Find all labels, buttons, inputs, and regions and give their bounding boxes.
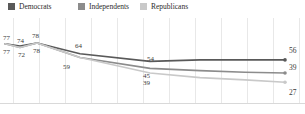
series-endpoint-markers	[283, 58, 287, 84]
legend-label-republicans: Republicans	[151, 2, 188, 11]
legend-label-independents: Independents	[89, 2, 129, 11]
legend-item-democrats: Democrats	[8, 2, 52, 11]
data-label: 74	[17, 37, 24, 45]
legend-label-democrats: Democrats	[19, 2, 52, 11]
data-label: 78	[33, 47, 40, 55]
legend-item-republicans: Republicans	[140, 2, 188, 11]
data-label: 59	[63, 63, 70, 71]
data-label: 54	[147, 55, 154, 63]
series-line-independents	[5, 43, 285, 73]
data-label: 39	[143, 79, 150, 87]
legend-item-independents: Independents	[78, 2, 129, 11]
line-chart-figure: Democrats Independents Republicans 77747…	[0, 0, 305, 114]
legend-swatch-independents	[78, 3, 85, 10]
data-label: 64	[75, 42, 82, 50]
chart-legend: Democrats Independents Republicans	[0, 0, 305, 18]
end-label-independents: 39	[289, 63, 297, 72]
legend-swatch-republicans	[140, 3, 147, 10]
endpoint-marker-democrats	[283, 58, 287, 62]
legend-swatch-democrats	[8, 3, 15, 10]
data-label: 78	[32, 32, 39, 40]
chart-canvas	[0, 18, 305, 114]
data-label: 77	[3, 34, 10, 42]
endpoint-marker-republicans	[283, 80, 287, 84]
endpoint-marker-independents	[283, 71, 287, 75]
plot-area: 7774787772786459544539 563927	[0, 18, 305, 114]
end-label-republicans: 27	[289, 88, 297, 97]
end-label-democrats: 56	[289, 46, 297, 55]
data-label: 77	[3, 48, 10, 56]
data-label: 72	[18, 51, 25, 59]
